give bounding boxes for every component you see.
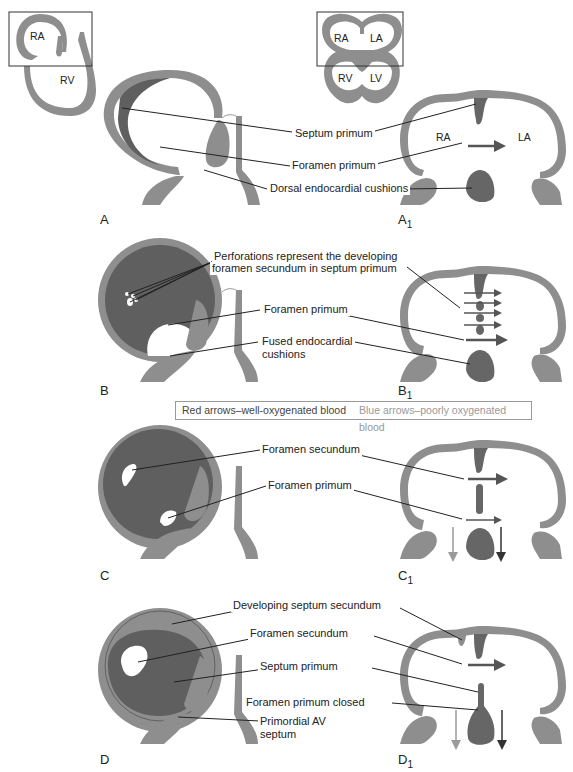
diagram-canvas	[0, 0, 573, 772]
panel-c-sagittal	[98, 425, 266, 559]
label-lv-thumb-right: LV	[370, 72, 382, 84]
panel-label-a1: A1	[398, 212, 412, 230]
label-ra-a1: RA	[436, 131, 451, 143]
panel-d1-frontal	[372, 608, 566, 750]
label-ra-thumb-left: RA	[30, 30, 45, 42]
panel-label-a: A	[100, 212, 109, 227]
panel-label-c1: C1	[398, 568, 413, 586]
label-foramen-secundum-c: Foramen secundum	[260, 443, 362, 456]
label-foramen-primum-b: Foramen primum	[262, 303, 350, 316]
panel-label-b1: B1	[398, 383, 412, 401]
label-fused-cushions-line1: Fused endocardial	[260, 335, 355, 348]
legend-blue-arrows: Blue arrows–poorly oxygenated blood	[359, 402, 531, 436]
label-rv-thumb-right: RV	[338, 72, 352, 84]
label-la-a1: LA	[518, 131, 531, 143]
label-developing-septum-secundum: Developing septum secundum	[231, 599, 383, 612]
thumbnail-frontal	[317, 12, 403, 103]
label-foramen-primum-a: Foramen primum	[290, 159, 378, 172]
legend-box: Red arrows–well-oxygenated blood Blue ar…	[175, 401, 532, 420]
label-la-thumb-right: LA	[370, 32, 383, 44]
label-foramen-primum-c: Foramen primum	[266, 479, 354, 492]
thumbnail-sagittal	[9, 12, 96, 116]
label-dorsal-cushions-a: Dorsal endocardial cushions	[268, 182, 410, 195]
label-primordial-av-line2: septum	[258, 728, 298, 741]
legend-red-arrows: Red arrows–well-oxygenated blood	[182, 402, 346, 419]
panel-c1-frontal	[342, 440, 566, 562]
label-fused-cushions-line2: cushions	[260, 348, 307, 361]
label-primordial-av-line1: Primordial AV	[258, 715, 328, 728]
label-ra-thumb-right: RA	[334, 32, 349, 44]
label-septum-primum-a: Septum primum	[293, 127, 375, 140]
panel-a-sagittal	[104, 70, 292, 205]
label-perforations-line2: foramen secundum in septum primum	[210, 262, 399, 275]
label-septum-primum-d: Septum primum	[258, 660, 340, 673]
label-foramen-primum-closed: Foramen primum closed	[244, 696, 367, 709]
panel-label-b: B	[100, 383, 109, 398]
panel-b1-frontal	[340, 266, 566, 382]
panel-label-c: C	[100, 568, 109, 583]
label-rv-thumb-left: RV	[60, 74, 74, 86]
label-foramen-secundum-d: Foramen secundum	[248, 627, 350, 640]
panel-label-d: D	[100, 752, 109, 767]
panel-label-d1: D1	[398, 752, 413, 770]
